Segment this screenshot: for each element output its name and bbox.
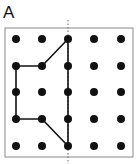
grid-dot <box>38 35 46 43</box>
grid-dot <box>38 142 46 150</box>
grid-dot <box>12 142 20 150</box>
grid-dot <box>117 115 125 123</box>
dot-grid-figure <box>0 0 138 164</box>
grid-dot <box>12 35 20 43</box>
grid-dot <box>117 142 125 150</box>
grid-dot <box>90 35 98 43</box>
grid-dot <box>90 115 98 123</box>
grid-dot <box>90 88 98 96</box>
grid-dot <box>117 35 125 43</box>
grid-dot <box>117 62 125 70</box>
grid-dot <box>90 62 98 70</box>
grid-dot <box>117 88 125 96</box>
grid-dot <box>38 88 46 96</box>
grid-dot <box>90 142 98 150</box>
